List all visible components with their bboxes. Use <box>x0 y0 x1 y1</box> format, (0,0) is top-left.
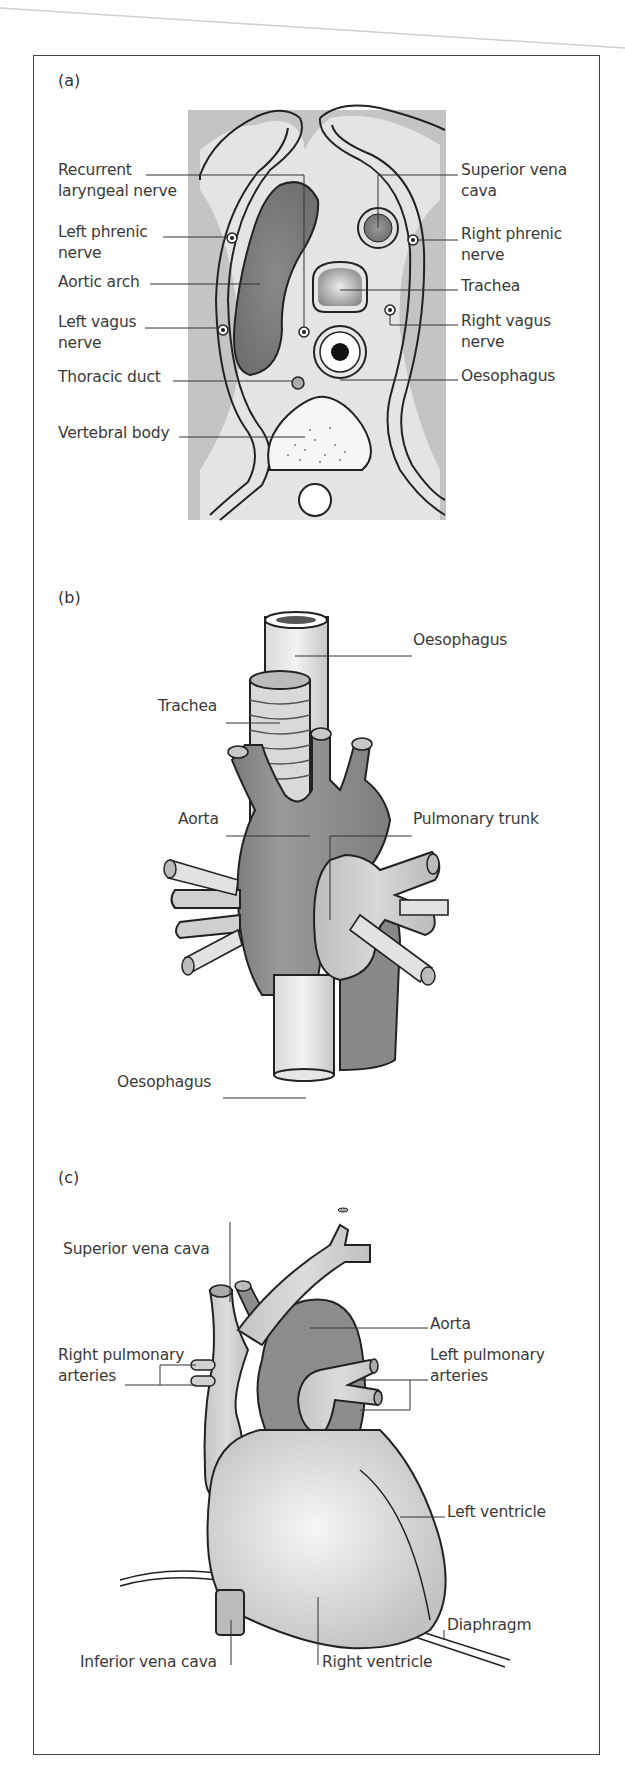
label-line: arteries <box>430 1366 545 1387</box>
label-line: Left pulmonary <box>430 1345 545 1366</box>
heart-anterior-illustration <box>0 0 625 1765</box>
label-left-pulmonary-arteries: Left pulmonary arteries <box>430 1345 545 1387</box>
label-aorta-c: Aorta <box>430 1314 471 1335</box>
label-line: Diaphragm <box>447 1615 531 1636</box>
label-line: Inferior vena cava <box>80 1652 217 1673</box>
label-diaphragm: Diaphragm <box>447 1615 531 1636</box>
label-line: Left ventricle <box>447 1502 546 1523</box>
label-line: Aorta <box>430 1314 471 1335</box>
label-inferior-vena-cava: Inferior vena cava <box>80 1652 217 1673</box>
label-superior-vena-cava-c: Superior vena cava <box>63 1239 210 1260</box>
label-line: Superior vena cava <box>63 1239 210 1260</box>
label-right-ventricle: Right ventricle <box>322 1652 432 1673</box>
label-line: Right ventricle <box>322 1652 432 1673</box>
label-line: Right pulmonary <box>58 1345 184 1366</box>
label-left-ventricle: Left ventricle <box>447 1502 546 1523</box>
label-right-pulmonary-arteries: Right pulmonary arteries <box>58 1345 184 1387</box>
label-line: arteries <box>58 1366 184 1387</box>
ivc-shape <box>216 1590 244 1635</box>
